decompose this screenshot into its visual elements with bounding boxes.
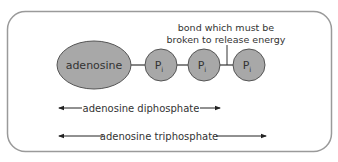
atp-diagram: adenosine Pi Pi Pi bond which must be br… (0, 0, 338, 162)
adenosine-group: adenosine (57, 41, 131, 89)
adp-span: adenosine diphosphate (59, 103, 220, 114)
phosphate-3: Pi (233, 49, 265, 81)
annotation-line-2: broken to release energy (167, 34, 286, 45)
phosphate-2: Pi (188, 49, 220, 81)
atp-label: adenosine triphosphate (100, 131, 218, 142)
adenosine-label: adenosine (66, 59, 123, 72)
annotation-line-1: bond which must be (178, 22, 275, 33)
phosphate-1: Pi (145, 49, 177, 81)
adp-label: adenosine diphosphate (83, 103, 200, 114)
